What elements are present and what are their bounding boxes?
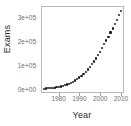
exams-by-year-scatter-chart: Exams 0e+001e+052e+053e+05 1980199020002…	[0, 0, 131, 126]
x-axis-tick-group: 1980199020002010	[0, 0, 131, 126]
x-axis-tick-mark	[79, 93, 80, 96]
x-axis-tick-mark	[59, 93, 60, 96]
x-axis-title: Year	[40, 110, 124, 120]
x-axis-tick-mark	[100, 93, 101, 96]
x-axis-tick-label: 2010	[109, 95, 131, 102]
x-axis-tick-mark	[121, 93, 122, 96]
